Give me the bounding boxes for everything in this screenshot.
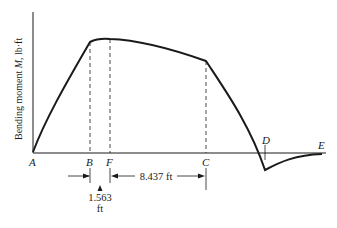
point-label-f: F — [105, 156, 113, 168]
y-axis-label: Bending moment M, lb·ft — [13, 38, 24, 140]
dim-bf-value: 1.563 — [88, 192, 112, 203]
point-label-d: D — [261, 134, 270, 146]
pointer-arrow-icon — [98, 185, 103, 191]
arrowhead-icon — [198, 174, 205, 179]
arrowhead-icon — [111, 174, 118, 179]
arrowhead-icon — [83, 174, 90, 179]
dim-fc-value: 8.437 ft — [140, 171, 173, 182]
moment-curve — [33, 39, 322, 170]
point-label-b: B — [86, 156, 93, 168]
point-label-c: C — [202, 156, 210, 168]
point-label-e: E — [317, 139, 325, 151]
dim-bf-unit: ft — [97, 203, 103, 214]
point-label-a: A — [28, 156, 36, 168]
bending-moment-diagram: Bending moment M, lb·ft A B F C D E 1.56… — [0, 0, 337, 228]
